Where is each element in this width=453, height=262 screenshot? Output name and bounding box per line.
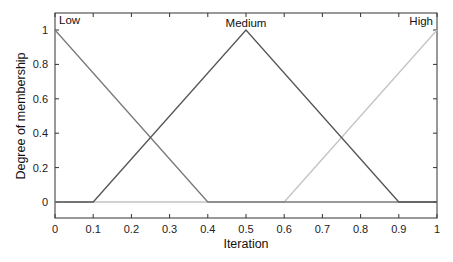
y-tick-label: 0.8 — [33, 58, 48, 70]
membership-curves — [55, 30, 437, 202]
curve-medium — [55, 30, 437, 202]
curve-label-high: High — [409, 15, 433, 27]
curve-label-medium: Medium — [226, 17, 267, 29]
x-tick-label: 0 — [52, 223, 58, 235]
y-tick-label: 0.2 — [33, 162, 48, 174]
x-tick-label: 0.7 — [315, 223, 330, 235]
membership-chart: 00.10.20.30.40.50.60.70.80.9100.20.40.60… — [0, 0, 453, 262]
curve-high — [55, 30, 437, 202]
y-tick-label: 0 — [42, 196, 48, 208]
y-tick-label: 0.4 — [33, 127, 48, 139]
curve-low — [55, 30, 437, 202]
x-tick-label: 0.9 — [391, 223, 406, 235]
x-tick-label: 0.6 — [277, 223, 292, 235]
x-tick-label: 0.8 — [353, 223, 368, 235]
y-tick-label: 1 — [42, 24, 48, 36]
y-axis-label: Degree of membership — [14, 52, 28, 179]
curve-label-low: Low — [59, 14, 81, 26]
x-tick-label: 1 — [434, 223, 440, 235]
y-tick-label: 0.6 — [33, 93, 48, 105]
x-tick-label: 0.3 — [162, 223, 177, 235]
plot-border — [55, 13, 437, 218]
x-tick-label: 0.4 — [200, 223, 215, 235]
x-tick-label: 0.1 — [86, 223, 101, 235]
x-axis-label: Iteration — [223, 237, 268, 251]
x-tick-label: 0.2 — [124, 223, 139, 235]
x-tick-label: 0.5 — [238, 223, 253, 235]
plot-frame — [55, 13, 437, 218]
